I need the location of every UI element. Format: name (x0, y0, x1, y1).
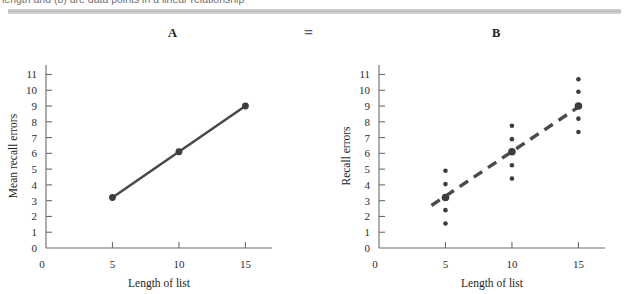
data-point-a-2 (242, 103, 249, 110)
y-axis-title-b: Recall errors (340, 126, 352, 186)
figure-root: length and (b) are data points in a line… (0, 0, 629, 294)
y-tick-label-4: 4 (32, 179, 38, 191)
chart-a-svg: 01234567891011 051015 Length of list Mea… (0, 55, 312, 294)
horizontal-rule (8, 9, 621, 14)
observation-point-b-4 (510, 176, 515, 181)
x-tick-label-10: 10 (173, 258, 185, 270)
observation-point-b-2 (443, 182, 448, 187)
mean-point-b-0 (442, 194, 450, 202)
cropped-caption-text: length and (b) are data points in a line… (2, 0, 244, 5)
observation-point-b-9 (576, 116, 581, 121)
y-tick-label-11: 11 (359, 68, 370, 80)
observation-point-b-11 (576, 77, 581, 82)
y-tick-label-0: 0 (365, 242, 371, 254)
y-tick-label-6: 6 (365, 147, 371, 159)
chart-a-x-ticks: 051015 (39, 242, 251, 270)
x-tick-label-10: 10 (506, 258, 518, 270)
y-tick-label-5: 5 (32, 163, 38, 175)
chart-panel-a: 01234567891011 051015 Length of list Mea… (0, 55, 312, 294)
equals-sign: = (304, 24, 313, 42)
y-tick-label-3: 3 (365, 195, 371, 207)
y-tick-label-10: 10 (26, 84, 38, 96)
x-tick-label-5: 5 (110, 258, 116, 270)
y-tick-label-8: 8 (32, 116, 38, 128)
cropped-caption-strip: length and (b) are data points in a line… (0, 0, 629, 9)
y-tick-label-7: 7 (32, 132, 38, 144)
y-tick-label-0: 0 (32, 242, 38, 254)
y-tick-label-3: 3 (32, 195, 38, 207)
observation-point-b-5 (510, 163, 515, 168)
y-tick-label-2: 2 (365, 210, 371, 222)
y-tick-label-9: 9 (365, 100, 371, 112)
observation-point-b-10 (576, 90, 581, 95)
mean-point-b-1 (508, 148, 516, 156)
y-tick-label-2: 2 (32, 210, 38, 222)
chart-a-axes (46, 65, 272, 248)
y-tick-label-11: 11 (26, 68, 37, 80)
data-point-a-0 (109, 194, 116, 201)
y-tick-label-10: 10 (359, 84, 371, 96)
chart-b-trendline (431, 103, 584, 206)
y-tick-label-1: 1 (365, 226, 371, 238)
chart-b-y-ticks: 01234567891011 (359, 68, 385, 254)
trend-line-b (431, 103, 584, 206)
x-tick-label-15: 15 (240, 258, 252, 270)
chart-panel-b: 01234567891011 051015 Length of list Rec… (333, 55, 629, 294)
panel-label-a: A (168, 26, 177, 41)
y-tick-label-8: 8 (365, 116, 371, 128)
y-tick-label-9: 9 (32, 100, 38, 112)
x-tick-label-5: 5 (443, 258, 449, 270)
x-axis-title-a: Length of list (128, 277, 191, 290)
chart-a-series (109, 103, 249, 201)
observation-point-b-6 (510, 137, 515, 142)
observation-point-b-1 (443, 208, 448, 213)
y-tick-label-6: 6 (32, 147, 38, 159)
x-axis-title-b: Length of list (461, 277, 524, 290)
observation-point-b-7 (510, 123, 515, 128)
chart-b-svg: 01234567891011 051015 Length of list Rec… (333, 55, 629, 294)
y-tick-label-7: 7 (365, 132, 371, 144)
chart-b-axes (379, 65, 605, 248)
y-tick-label-1: 1 (32, 226, 38, 238)
observation-point-b-8 (576, 130, 581, 135)
observation-point-b-3 (443, 168, 448, 173)
y-tick-label-4: 4 (365, 179, 371, 191)
y-tick-label-5: 5 (365, 163, 371, 175)
panel-label-b: B (492, 26, 500, 41)
x-tick-label-0: 0 (372, 258, 378, 270)
y-axis-title-a: Mean recall errors (7, 113, 19, 198)
x-tick-label-0: 0 (39, 258, 45, 270)
x-tick-label-15: 15 (573, 258, 585, 270)
observation-point-b-0 (443, 221, 448, 226)
chart-a-y-ticks: 01234567891011 (26, 68, 52, 254)
chart-b-x-ticks: 051015 (372, 242, 584, 270)
mean-point-b-2 (575, 102, 583, 110)
data-point-a-1 (176, 148, 183, 155)
